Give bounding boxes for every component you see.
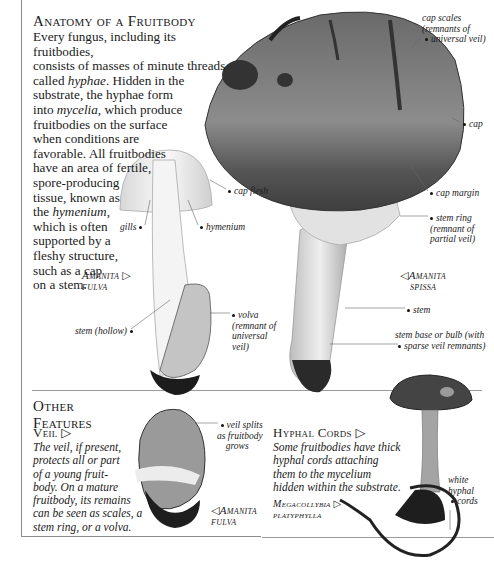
leader-lines	[0, 0, 494, 579]
